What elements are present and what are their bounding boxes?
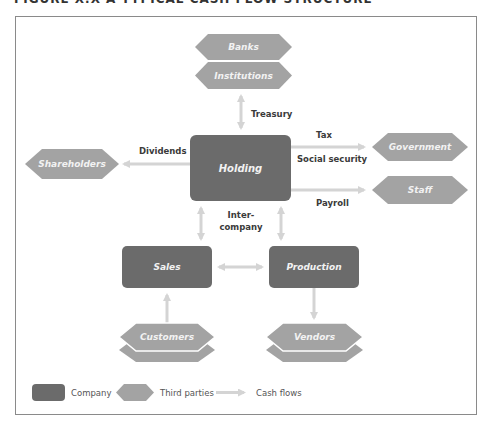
social-security-label: Social security [297, 154, 368, 164]
hex-institutions[interactable]: Institutions [195, 62, 292, 89]
legend-third-party-swatch [116, 384, 154, 401]
government-label: Government [389, 142, 452, 152]
banks-label: Banks [228, 42, 259, 52]
legend-cash-flows-label: Cash flows [256, 388, 302, 398]
legend: Company Third parties Cash flows [32, 384, 302, 401]
dividends-label: Dividends [139, 146, 186, 156]
staff-label: Staff [408, 185, 434, 195]
hex-banks[interactable]: Banks [195, 34, 292, 60]
sales-label: Sales [153, 262, 181, 272]
box-production[interactable]: Production [269, 246, 359, 288]
hex-staff[interactable]: Staff [372, 176, 468, 204]
tax-label: Tax [316, 130, 332, 140]
hex-vendors[interactable]: Vendors [266, 323, 363, 362]
treasury-label: Treasury [251, 109, 293, 119]
shareholders-label: Shareholders [38, 159, 106, 169]
hex-customers[interactable]: Customers [119, 323, 215, 362]
intercompany-label-line1: Inter- [228, 210, 255, 220]
legend-company-swatch [32, 384, 65, 401]
hex-government[interactable]: Government [372, 133, 468, 161]
institutions-label: Institutions [214, 71, 273, 81]
legend-company-label: Company [71, 388, 111, 398]
production-label: Production [286, 262, 341, 272]
payroll-label: Payroll [316, 198, 349, 208]
cash-flow-diagram: Banks Institutions Shareholders Governme… [0, 0, 493, 434]
holding-label: Holding [219, 163, 263, 174]
intercompany-label-line2: company [219, 222, 263, 232]
vendors-label: Vendors [294, 332, 336, 342]
box-sales[interactable]: Sales [122, 246, 212, 288]
box-holding[interactable]: Holding [190, 135, 291, 201]
customers-label: Customers [140, 332, 195, 342]
hex-shareholders[interactable]: Shareholders [25, 149, 119, 179]
legend-third-parties-label: Third parties [159, 388, 214, 398]
